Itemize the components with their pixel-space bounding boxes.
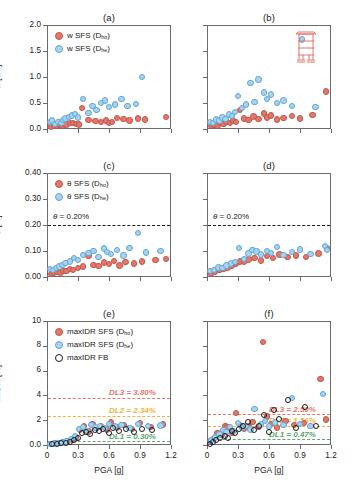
y-tickmark-f-3 [203,371,207,372]
x-tickmark-c-4 [171,277,172,281]
data-point [75,114,81,120]
data-point [261,89,267,95]
x-tick-label-f-0: 0 [193,451,221,460]
data-point [120,252,126,258]
panel-title-d: (d) [207,160,331,171]
data-point [255,76,261,82]
y-tick-label-a-4: 2.0 [3,20,41,29]
x-tick-label-e-0: 0 [33,451,61,460]
legend-label: w SFS (Dhe) [67,44,110,53]
data-point [280,115,286,121]
y-tickmark-a-1 [43,103,47,104]
y-tick-label-a-2: 1.0 [3,72,41,81]
y-tick-label-a-0: 0.0 [3,124,41,133]
y-tickmark-b-1 [203,103,207,104]
data-point [122,259,128,265]
data-point [90,248,96,254]
x-tickmark-f-4 [331,445,332,449]
y-tickmark-e-1 [43,420,47,421]
y-tick-label-a-3: 1.5 [3,46,41,55]
y-tickmark-a-3 [43,51,47,52]
x-tickmark-e-4 [171,445,172,449]
x-tick-label-f-3: 0.9 [286,451,314,460]
x-tick-label-e-2: 0.6 [95,451,123,460]
x-tickmark-a-3 [140,129,141,133]
damage-level-label-e-DL2: DL2 = 2.34% [109,406,156,415]
data-point [100,426,106,432]
data-point [251,255,257,261]
data-point [251,427,257,433]
data-point [315,250,321,256]
x-tickmark-e-3 [140,445,141,449]
y-axis-label-a: w [cm] [0,42,4,112]
x-tickmark-b-0 [207,129,208,133]
data-point [261,412,267,418]
x-tickmark-b-4 [331,129,332,133]
x-tick-label-f-1: 0.3 [224,451,252,460]
damage-level-label-f-DL1: DL1 = 0.47% [269,430,316,439]
y-tickmark-e-2 [43,395,47,396]
data-point [302,404,308,410]
data-point [309,112,315,118]
damage-level-line-e-DL3 [48,398,170,399]
y-tickmark-c-3 [43,199,47,200]
data-point [139,258,145,264]
x-tickmark-e-2 [109,445,110,449]
x-tickmark-e-1 [78,445,79,449]
legend-c: θ SFS (Dho)θ SFS (Dhe) [53,177,109,203]
legend-label: maxIDR SFS (Dho) [67,327,133,336]
x-tickmark-f-1 [238,445,239,449]
x-tickmark-f-2 [269,445,270,449]
y-tick-label-e-0: 0.0 [3,440,41,449]
threshold-label-c: θ = 0.20% [53,212,89,221]
data-point [85,110,91,116]
y-tick-label-c-4: 0.40 [3,168,41,177]
legend-label: w SFS (Dho) [67,31,110,40]
data-point [258,251,264,257]
data-point [126,117,132,123]
data-point [235,93,241,99]
y-tickmark-f-2 [203,395,207,396]
threshold-line-c [48,225,170,226]
y-tick-label-e-4: 8 [3,340,41,349]
legend-a: w SFS (Dho)w SFS (Dhe) [53,29,110,55]
x-tick-label-e-3: 0.9 [126,451,154,460]
damage-level-label-e-DL3: DL3 = 3.80% [109,388,156,397]
panel-title-c: (c) [47,160,171,171]
legend-label: maxIDR SFS (Dhe) [67,340,133,349]
data-point [124,103,130,109]
data-point [255,116,261,122]
data-point [307,251,313,257]
data-point [313,423,319,429]
x-tick-label-f-2: 0.6 [255,451,283,460]
data-point [80,263,86,269]
data-point [289,249,295,255]
data-point [135,230,141,236]
legend-marker-filled-blue [55,341,63,349]
x-tickmark-c-0 [47,277,48,281]
y-tickmark-f-1 [203,420,207,421]
y-tickmark-c-2 [43,225,47,226]
x-tickmark-d-4 [331,277,332,281]
x-tickmark-d-0 [207,277,208,281]
x-tickmark-d-1 [238,277,239,281]
data-point [163,256,169,262]
x-tick-label-e-1: 0.3 [64,451,92,460]
data-point [139,426,145,432]
data-point [233,410,239,416]
legend-entry-a-1: w SFS (Dhe) [53,42,110,55]
y-tickmark-c-4 [43,173,47,174]
panel-title-e: (e) [47,308,171,319]
x-tick-label-f-4: 1.2 [317,451,345,460]
legend-entry-e-1: maxIDR SFS (Dhe) [53,338,133,351]
legend-e: maxIDR SFS (Dho)maxIDR SFS (Dhe)maxIDR F… [53,325,133,364]
data-point [280,422,286,428]
data-point [95,254,101,260]
y-tick-label-c-0: 0.00 [3,272,41,281]
y-tickmark-c-1 [43,251,47,252]
data-point [297,246,303,252]
y-tick-label-a-1: 0.5 [3,98,41,107]
y-tickmark-e-5 [43,321,47,322]
x-tickmark-b-1 [238,129,239,133]
y-tick-label-e-3: 6 [3,365,41,374]
